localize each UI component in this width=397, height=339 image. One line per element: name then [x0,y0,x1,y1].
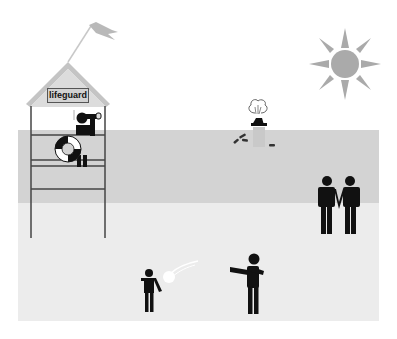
lifeguard-sign: lifeguard [47,88,89,103]
couple-icon [315,175,365,237]
drowning-person-icon [225,95,285,155]
lifebuoy-icon [53,134,83,164]
ball-icon [160,258,200,286]
sun-icon [305,24,385,104]
person-throwing-icon [228,252,273,317]
beach-scene: lifeguard [0,0,397,339]
